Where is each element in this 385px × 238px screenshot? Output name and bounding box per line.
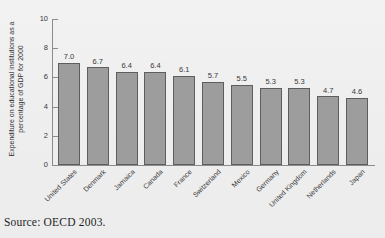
bar[interactable]: [173, 76, 195, 165]
bar[interactable]: [116, 72, 138, 165]
bar[interactable]: [231, 85, 253, 165]
bar-value-label: 5.5: [237, 75, 247, 83]
plot-area: 7.06.76.46.46.15.75.55.35.34.74.6: [52, 19, 375, 165]
y-axis-title: Expenditure on educational institutions …: [0, 16, 32, 165]
bar[interactable]: [288, 88, 310, 165]
bar-value-label: 6.7: [93, 58, 103, 66]
bar[interactable]: [87, 67, 109, 165]
y-axis-tick-label: 0: [26, 161, 48, 169]
y-axis-tick-label: 10: [26, 15, 48, 23]
bar-group[interactable]: 4.7: [317, 19, 339, 165]
source-note: Source: OECD 2003.: [4, 216, 106, 228]
y-axis-tick-label: 4: [26, 103, 48, 111]
bar-group[interactable]: 5.3: [288, 19, 310, 165]
y-axis-tick-label: 2: [26, 132, 48, 140]
bar-group[interactable]: 6.1: [173, 19, 195, 165]
bar[interactable]: [58, 63, 80, 165]
figure: Expenditure on educational institutions …: [0, 0, 385, 238]
bar-value-label: 6.4: [121, 62, 131, 70]
bar-group[interactable]: 6.4: [116, 19, 138, 165]
bar-value-label: 6.4: [150, 62, 160, 70]
bar[interactable]: [144, 72, 166, 165]
bar-value-label: 4.6: [352, 88, 362, 96]
bar-group[interactable]: 5.7: [202, 19, 224, 165]
bar[interactable]: [346, 98, 368, 165]
bar-group[interactable]: 6.4: [144, 19, 166, 165]
bar-group[interactable]: 4.6: [346, 19, 368, 165]
bar-value-label: 5.3: [265, 78, 275, 86]
bar-value-label: 4.7: [323, 87, 333, 95]
bar[interactable]: [202, 82, 224, 165]
bar-value-label: 6.1: [179, 66, 189, 74]
bar[interactable]: [317, 96, 339, 165]
bar-group[interactable]: 7.0: [58, 19, 80, 165]
y-axis-tick-label: 6: [26, 73, 48, 81]
x-axis-spine: [52, 165, 375, 166]
bar-group[interactable]: 6.7: [87, 19, 109, 165]
y-axis-tick-label: 8: [26, 44, 48, 52]
bar-value-label: 7.0: [64, 53, 74, 61]
bar-group[interactable]: 5.5: [231, 19, 253, 165]
bar[interactable]: [260, 88, 282, 165]
bar-group[interactable]: 5.3: [260, 19, 282, 165]
bar-value-label: 5.3: [294, 78, 304, 86]
bar-value-label: 5.7: [208, 72, 218, 80]
